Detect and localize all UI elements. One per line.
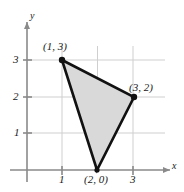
coordinate-plane-graphic [0, 0, 184, 192]
point-label-1-3: (1, 3) [43, 41, 67, 52]
x-tick-label-3: 3 [130, 174, 136, 185]
figure-canvas: y x 3 2 1 1 3 (1, 3) (3, 2) (2, 0) [0, 0, 184, 192]
vertex-dot-3-2 [131, 94, 137, 100]
vertex-dot-2-0 [94, 167, 99, 172]
y-axis-label: y [30, 11, 34, 21]
point-label-3-2: (3, 2) [129, 82, 153, 93]
point-label-2-0: (2, 0) [84, 174, 108, 185]
x-tick-label-1: 1 [59, 174, 65, 185]
y-tick-label-3: 3 [13, 54, 19, 65]
y-axis-arrowhead [24, 22, 30, 29]
x-axis-label: x [172, 161, 176, 171]
y-tick-label-2: 2 [13, 91, 19, 102]
vertex-dot-1-3 [59, 57, 65, 63]
y-tick-label-1: 1 [14, 127, 20, 138]
x-axis-arrowhead [163, 167, 170, 173]
